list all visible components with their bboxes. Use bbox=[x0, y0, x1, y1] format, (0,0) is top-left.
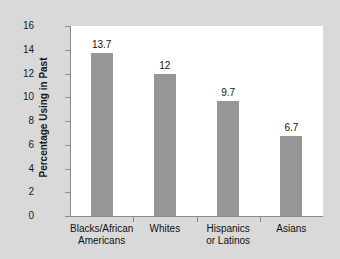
bar-group[interactable]: 12 bbox=[133, 26, 196, 216]
x-axis-category-label: Blacks/AfricanAmericans bbox=[70, 223, 133, 247]
y-tick-label: 10 bbox=[4, 92, 34, 102]
x-tick-mark bbox=[260, 217, 261, 222]
bar-group[interactable]: 9.7 bbox=[197, 26, 260, 216]
y-tick-label: 2 bbox=[4, 187, 34, 197]
bar[interactable] bbox=[91, 53, 113, 216]
y-tick-label: 16 bbox=[4, 21, 34, 31]
bar-value-label: 6.7 bbox=[261, 122, 321, 133]
x-axis-labels: Blacks/AfricanAmericansWhitesHispanicsor… bbox=[70, 223, 323, 255]
y-axis-title: Percentage Using in Past bbox=[38, 23, 49, 213]
x-tick-mark bbox=[197, 217, 198, 222]
bar[interactable] bbox=[217, 101, 239, 216]
x-tick-mark bbox=[133, 217, 134, 222]
y-tick-label: 0 bbox=[4, 211, 34, 221]
y-tick-label: 6 bbox=[4, 140, 34, 150]
x-axis-category-line: Americans bbox=[70, 235, 133, 247]
y-tick-label: 14 bbox=[4, 45, 34, 55]
x-axis-category-line: Asians bbox=[260, 223, 323, 235]
chart-panel: Percentage Using in Past 1614121086420 1… bbox=[10, 8, 322, 243]
chart-figure: Percentage Using in Past 1614121086420 1… bbox=[0, 0, 340, 259]
x-axis-category-line: or Latinos bbox=[197, 235, 260, 247]
bar-value-label: 9.7 bbox=[198, 87, 258, 98]
bar-value-label: 13.7 bbox=[72, 39, 132, 50]
y-tick-label: 12 bbox=[4, 69, 34, 79]
x-axis-category-label: Asians bbox=[260, 223, 323, 235]
x-axis-category-line: Blacks/African bbox=[70, 223, 133, 235]
y-tick-label: 8 bbox=[4, 116, 34, 126]
bar-value-label: 12 bbox=[135, 60, 195, 71]
x-axis-category-label: Whites bbox=[133, 223, 196, 235]
bar-group[interactable]: 13.7 bbox=[70, 26, 133, 216]
y-tick-label: 4 bbox=[4, 164, 34, 174]
x-axis-category-line: Hispanics bbox=[197, 223, 260, 235]
bar[interactable] bbox=[280, 136, 302, 216]
bars-layer: 13.7129.76.7 bbox=[70, 26, 323, 216]
bar[interactable] bbox=[154, 74, 176, 217]
x-axis-category-line: Whites bbox=[133, 223, 196, 235]
x-axis-category-label: Hispanicsor Latinos bbox=[197, 223, 260, 247]
bar-group[interactable]: 6.7 bbox=[260, 26, 323, 216]
